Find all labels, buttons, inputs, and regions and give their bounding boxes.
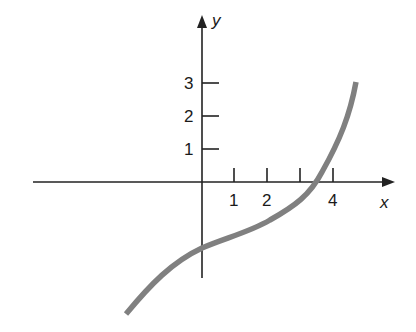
- x-axis-label: x: [379, 193, 389, 212]
- x-tick-label-1: 1: [229, 191, 238, 210]
- y-ticks: [202, 83, 219, 149]
- y-tick-label-1: 1: [184, 140, 193, 159]
- y-tick-label-2: 2: [184, 107, 193, 126]
- function-curve: [126, 82, 356, 314]
- x-tick-label-4: 4: [328, 191, 337, 210]
- y-axis-arrow-icon: [197, 15, 207, 28]
- x-tick-label-2: 2: [262, 191, 271, 210]
- function-graph: 1 2 4 1 2 3 x y: [0, 0, 416, 332]
- x-axis-arrow-icon: [382, 177, 395, 187]
- y-tick-label-3: 3: [184, 74, 193, 93]
- y-axis-label: y: [211, 11, 222, 30]
